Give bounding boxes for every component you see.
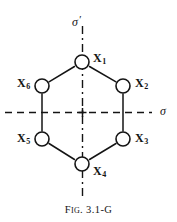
vertex-label-x2: X2 xyxy=(135,77,148,91)
sigma-prime-axis-label: σ′ xyxy=(72,14,81,28)
vertex-label-x4: X4 xyxy=(93,165,106,179)
vertex-circle-x6[interactable] xyxy=(35,79,49,93)
vertex-circle-x2[interactable] xyxy=(116,79,130,93)
bond-x3-x4 xyxy=(90,144,117,160)
sigma-axis-label: σ xyxy=(160,105,166,117)
vertex-label-x3: X3 xyxy=(135,132,148,146)
vertex-label-x6: X6 xyxy=(17,77,30,91)
vertex-circle-x4[interactable] xyxy=(75,157,89,171)
bond-x4-x5 xyxy=(49,144,75,160)
vertex-circle-x3[interactable] xyxy=(116,132,130,146)
vertex-circle-x5[interactable] xyxy=(35,132,49,146)
vertex-circle-x1[interactable] xyxy=(75,55,89,69)
center-marker xyxy=(79,108,87,117)
hexagon-diagram xyxy=(0,0,177,222)
bond-x6-x1 xyxy=(49,67,75,82)
bond-x1-x2 xyxy=(90,67,117,82)
vertex-label-x5: X5 xyxy=(17,132,30,146)
figure-container: X1 X2 X3 X4 X5 X6 σ′ σ FIG. 3.1-G xyxy=(0,0,177,222)
vertex-label-x1: X1 xyxy=(93,52,106,66)
figure-caption: FIG. 3.1-G xyxy=(0,204,177,215)
